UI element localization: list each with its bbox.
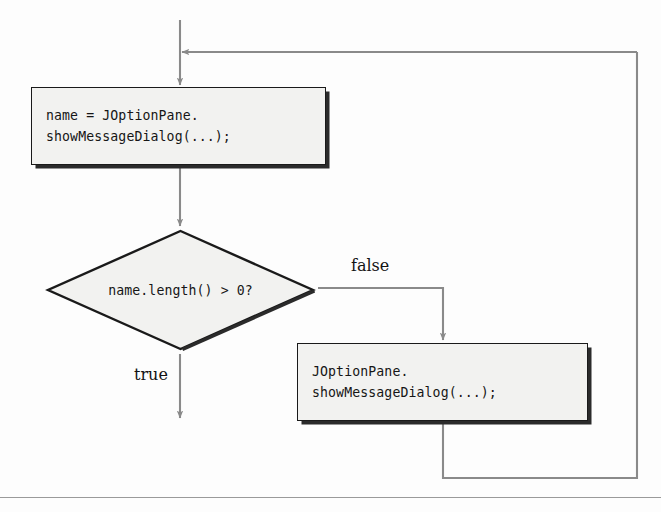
flowchart-figure: name = JOptionPane. showMessageDialog(..… xyxy=(0,0,661,512)
process-node-reprompt-statement-line-1: JOptionPane. xyxy=(298,361,587,382)
decision-node-label: name.length() > 0? xyxy=(45,228,316,352)
process-node-input-statement-line-1: name = JOptionPane. xyxy=(32,105,325,126)
connector-false-branch xyxy=(318,288,443,340)
edge-label-true: true xyxy=(134,365,168,384)
process-node-input-statement-line-2: showMessageDialog(...); xyxy=(32,126,325,147)
process-node-reprompt-statement-line-2: showMessageDialog(...); xyxy=(298,382,587,403)
process-node-input-statement: name = JOptionPane. showMessageDialog(..… xyxy=(31,87,326,165)
decision-node-length-check: name.length() > 0? xyxy=(45,228,316,352)
edge-label-false: false xyxy=(351,256,389,275)
figure-bottom-rule xyxy=(0,497,661,498)
process-node-reprompt-statement: JOptionPane. showMessageDialog(...); xyxy=(297,343,588,421)
